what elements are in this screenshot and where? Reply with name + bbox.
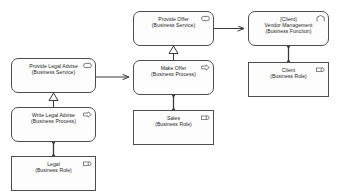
edge-realization-make-offer-provide-offer: [169, 46, 178, 60]
business-role-icon: [316, 66, 325, 73]
node-sublabel: (Business Process): [31, 118, 76, 124]
business-process-icon: [201, 64, 210, 71]
node-sales[interactable]: Sales (Business Role): [133, 110, 214, 145]
node-sublabel: (Business Role): [270, 73, 307, 79]
edge-assignment-sales-make-offer: [172, 93, 175, 111]
business-role-icon: [201, 114, 210, 121]
node-write-legal-advise[interactable]: Write Legal Advise (Business Process): [11, 107, 96, 142]
node-vendor-management[interactable]: [Client] Vendor Management (Business Fun…: [248, 11, 329, 46]
node-sublabel: (Business Service): [152, 22, 195, 28]
business-service-icon: [201, 15, 210, 22]
business-service-icon: [83, 62, 92, 69]
business-role-icon: [83, 160, 92, 167]
node-client[interactable]: Client (Business Role): [248, 62, 329, 97]
node-sublabel: (Business Process): [151, 71, 196, 77]
edge-assignment-client-vendor-management: [287, 44, 290, 63]
node-sublabel: (Business Service): [32, 69, 75, 75]
business-process-icon: [83, 111, 92, 118]
business-function-icon: [316, 15, 325, 22]
node-legal[interactable]: Legal (Business Role): [11, 156, 96, 191]
node-provide-offer[interactable]: Provide Offer (Business Service): [133, 11, 214, 46]
node-provide-legal-advise[interactable]: Provide Legal Advise (Business Service): [11, 58, 96, 93]
edge-realization-write-legal-advise-provide-legal-advise: [49, 93, 58, 107]
node-sublabel: (Business Role): [155, 121, 192, 127]
node-sublabel: (Business Role): [35, 167, 72, 173]
diagram-canvas: Provide Offer (Business Service) [Client…: [0, 0, 349, 196]
node-make-offer[interactable]: Make Offer (Business Process): [133, 60, 214, 95]
node-sublabel: (Business Function): [266, 28, 312, 34]
